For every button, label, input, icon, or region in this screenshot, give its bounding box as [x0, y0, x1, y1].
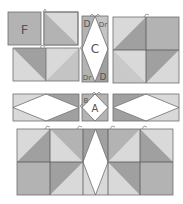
diamond-rect-left	[13, 94, 79, 121]
seam-arrow-icon	[40, 45, 45, 48]
label-a: A	[92, 103, 99, 114]
four-patch-right	[113, 14, 179, 83]
label-d-top-left: D	[84, 19, 91, 29]
label-dr-top-right: Dr	[99, 21, 107, 29]
hst-pair-left	[13, 45, 79, 81]
label-b: B	[84, 97, 89, 105]
label-f: F	[21, 22, 28, 37]
label-dr-bottom-left: Dr	[83, 74, 91, 82]
seam-arrow-icon	[144, 14, 149, 17]
seam-arrow-icon	[45, 126, 147, 129]
quilt-diagram: F C D Dr Dr D	[0, 0, 183, 204]
piece-f-square: F	[8, 12, 41, 45]
assembled-block	[17, 126, 173, 195]
seam-arrow-icon	[43, 9, 46, 12]
label-c: C	[91, 42, 99, 56]
label-d-bottom-right: D	[100, 72, 107, 82]
hst-square-top	[43, 9, 78, 45]
piece-c-unit: C D Dr Dr D	[80, 14, 108, 82]
piece-a-unit: A B	[80, 92, 108, 121]
diamond-rect-right	[113, 94, 179, 121]
